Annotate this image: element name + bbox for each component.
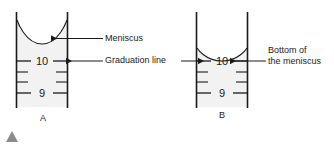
bottom-of-meniscus-line2: the meniscus	[268, 56, 321, 67]
cylinder-a-label: A	[40, 113, 46, 124]
cylinder-b-value-9: 9	[219, 87, 225, 99]
cylinder-diagram-svg: 10 9 10 9	[0, 0, 334, 148]
cylinder-a-value-10: 10	[36, 55, 48, 67]
bottom-of-meniscus-label: Bottom of the meniscus	[268, 45, 321, 67]
cylinder-b-group: 10 9	[197, 12, 248, 108]
meniscus-label: Meniscus	[105, 33, 143, 44]
cylinder-a-value-9: 9	[39, 87, 45, 99]
figure-canvas: 10 9 10 9	[0, 0, 334, 148]
graduation-line-label: Graduation line	[105, 55, 166, 66]
bottom-of-meniscus-line1: Bottom of	[268, 45, 321, 56]
cylinder-b-label: B	[219, 110, 225, 121]
cylinder-b-value-10: 10	[216, 55, 228, 67]
corner-triangle-marker	[6, 131, 18, 142]
cylinder-a-group: 10 9	[17, 12, 68, 108]
